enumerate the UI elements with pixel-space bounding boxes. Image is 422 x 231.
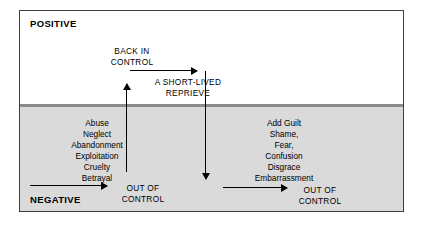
list-item: Embarrassment bbox=[229, 173, 339, 184]
out-of-control-label-right: OUT OFCONTROL bbox=[292, 185, 348, 206]
list-item: Neglect bbox=[42, 129, 152, 140]
positive-zone-label: POSITIVE bbox=[30, 18, 77, 29]
list-item: Confusion bbox=[229, 151, 339, 162]
list-item: Abuse bbox=[42, 118, 152, 129]
list-item: Abandonment bbox=[42, 140, 152, 151]
negative-causes-list: Abuse Neglect Abandonment Exploitation C… bbox=[42, 118, 152, 184]
short-lived-reprieve-label: A SHORT-LIVEDREPRIEVE bbox=[145, 77, 231, 98]
negative-zone-label: NEGATIVE bbox=[30, 194, 81, 205]
added-emotions-list: Add Guilt Shame, Fear, Confusion Disgrac… bbox=[229, 118, 339, 184]
list-item: Fear, bbox=[229, 140, 339, 151]
bottom-left-progression-arrow bbox=[30, 185, 107, 186]
relapse-fall-arrow bbox=[205, 71, 206, 179]
list-item: Exploitation bbox=[42, 151, 152, 162]
cycle-diagram: POSITIVE NEGATIVE Abuse Neglect Abandonm… bbox=[19, 10, 404, 212]
back-in-control-progression-arrow bbox=[130, 70, 197, 71]
list-item: Cruelty bbox=[42, 162, 152, 173]
list-item: Disgrace bbox=[229, 162, 339, 173]
back-in-control-label: BACK INCONTROL bbox=[92, 46, 172, 67]
bottom-right-progression-arrow bbox=[223, 187, 287, 188]
list-item: Shame, bbox=[229, 129, 339, 140]
recovery-rise-arrow bbox=[126, 84, 127, 172]
list-item: Add Guilt bbox=[229, 118, 339, 129]
out-of-control-label-left: OUT OFCONTROL bbox=[115, 183, 171, 204]
